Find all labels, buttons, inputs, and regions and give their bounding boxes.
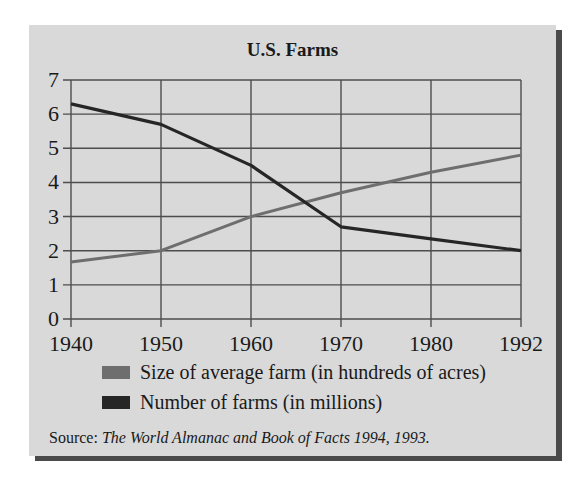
legend-item-farm-size: Size of average farm (in hundreds of acr… — [102, 362, 486, 382]
x-tick-label: 1992 — [499, 331, 543, 356]
y-tick-label: 2 — [48, 238, 59, 263]
y-tick-label: 3 — [48, 204, 59, 229]
y-tick-label: 5 — [48, 135, 59, 160]
legend-label-farm-count: Number of farms (in millions) — [140, 391, 382, 414]
chart-panel: U.S. Farms 01234567 19401950196019701980… — [29, 25, 556, 456]
x-tick-label: 1980 — [409, 331, 453, 356]
y-tick-label: 4 — [48, 169, 59, 194]
y-tick-label: 6 — [48, 101, 59, 126]
y-tick-label: 1 — [48, 272, 59, 297]
source-prefix: Source: — [49, 429, 102, 446]
y-axis-ticks: 01234567 — [48, 67, 59, 331]
y-tick-label: 0 — [48, 306, 59, 331]
series-line-0 — [71, 155, 521, 262]
legend-swatch-farm-size — [102, 366, 130, 379]
legend-swatch-farm-count — [102, 396, 130, 409]
source-note: Source: The World Almanac and Book of Fa… — [49, 429, 430, 447]
x-tick-label: 1970 — [319, 331, 363, 356]
legend-item-farm-count: Number of farms (in millions) — [102, 392, 382, 412]
source-title: The World Almanac and Book of Facts 1994… — [102, 429, 430, 446]
x-axis-ticks: 194019501960197019801992 — [49, 331, 543, 356]
x-tick-label: 1940 — [49, 331, 93, 356]
legend-label-farm-size: Size of average farm (in hundreds of acr… — [140, 361, 486, 384]
y-tick-label: 7 — [48, 67, 59, 92]
x-tick-label: 1950 — [139, 331, 183, 356]
x-tick-label: 1960 — [229, 331, 273, 356]
series-line-1 — [71, 104, 521, 251]
